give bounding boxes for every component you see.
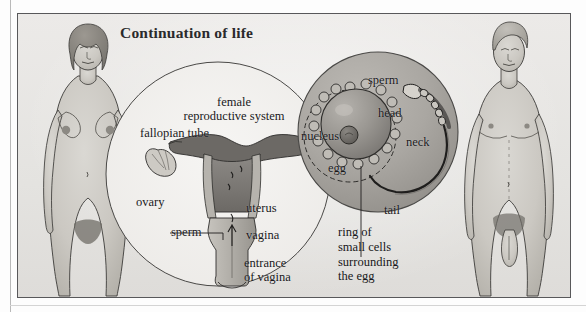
male-figure-illustration [465, 22, 554, 296]
label-tail: tail [384, 204, 400, 218]
label-nucleus: nucleus [301, 130, 339, 144]
egg-cell [321, 89, 391, 159]
label-entrance-of-vagina: entrance of vagina [244, 257, 291, 284]
label-female-reproductive-system: female reproductive system [174, 96, 294, 123]
caption-ring-of-small-cells: ring of small cells surrounding the egg [338, 225, 398, 284]
label-sperm-lower: sperm [171, 226, 202, 240]
label-neck: neck [406, 136, 430, 150]
page-rule-bottom [10, 305, 586, 306]
label-egg: egg [328, 162, 346, 176]
label-sperm-upper: sperm [368, 74, 399, 88]
page-canvas: Continuation of life female reproductive… [0, 0, 586, 312]
label-fallopian-tube: fallopian tube [140, 127, 209, 141]
diagram-plate: Continuation of life female reproductive… [17, 13, 571, 298]
label-vagina: vagina [246, 229, 279, 243]
label-head: head [378, 107, 402, 121]
page-rule-left [10, 0, 11, 312]
page-title: Continuation of life [120, 24, 253, 42]
nucleus-shape [340, 126, 358, 144]
label-uterus: uterus [246, 202, 277, 216]
artwork-layer [18, 14, 570, 297]
label-ovary: ovary [136, 196, 164, 210]
